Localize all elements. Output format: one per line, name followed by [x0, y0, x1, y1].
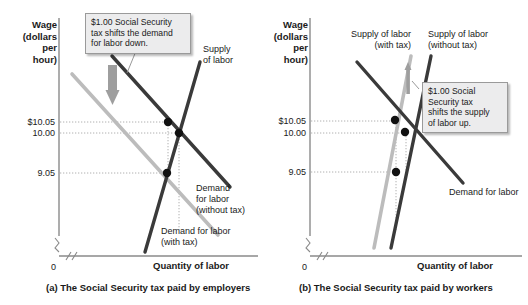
y-axis-title: Wage (dollars per hour) [0, 19, 57, 65]
callout-leader-line [412, 81, 419, 89]
y-axis-title: Wage (dollars per hour) [264, 19, 308, 65]
figure-root: Wage (dollars per hour) $10.05 10.00 9.0… [0, 0, 528, 305]
panel-b-caption: (b) The Social Security tax paid by work… [299, 282, 493, 293]
panel-a-caption: (a) The Social Security tax paid by empl… [46, 282, 250, 293]
curve-label-demand-for-labor: Demand for labor [449, 187, 519, 198]
curve-supply-with-tax [374, 56, 411, 248]
point-wage-1000 [175, 129, 183, 137]
x-axis-title: Quantity of labor [153, 260, 229, 272]
y-tick-label-905: 9.05 [0, 168, 55, 179]
panel-b: Wage (dollars per hour) $10.05 10.00 9.0… [264, 0, 528, 305]
callout-demand-shift: $1.00 Social Security tax shifts the dem… [85, 13, 191, 54]
y-axis-break-mark [55, 238, 59, 252]
callout-supply-shift: $1.00 Social Security tax shifts the sup… [422, 82, 508, 133]
panel-a: Wage (dollars per hour) $10.05 10.00 9.0… [0, 0, 264, 305]
y-tick-label-1000: 10.00 [0, 128, 55, 139]
point-wage-905 [163, 169, 171, 177]
origin-label: 0 [51, 262, 56, 273]
y-tick-label-1005: $10.05 [0, 117, 55, 128]
point-wage-1005 [391, 116, 399, 124]
curve-label-demand-without-tax: Demand for labor (without tax) [196, 183, 245, 216]
y-tick-label-905: 9.05 [264, 167, 306, 178]
curve-label-supply-of-labor: Supply of labor [203, 44, 233, 66]
point-wage-905 [392, 168, 400, 176]
y-axis-break-mark [306, 238, 310, 252]
curve-supply-of-labor [145, 62, 200, 252]
callout-leader-line [127, 51, 136, 73]
point-wage-1005 [164, 118, 172, 126]
curve-label-supply-without-tax: Supply of labor (without tax) [428, 29, 488, 51]
curve-label-demand-with-tax: Demand for labor (with tax) [161, 226, 231, 248]
y-tick-label-1000: 10.00 [264, 128, 306, 139]
shift-arrow-down-icon [106, 65, 120, 105]
x-axis-title: Quantity of labor [417, 260, 493, 272]
origin-label: 0 [302, 262, 307, 273]
curve-label-supply-with-tax: Supply of labor (with tax) [316, 29, 411, 51]
point-wage-1000 [401, 128, 409, 136]
y-tick-label-1005: $10.05 [264, 116, 306, 127]
